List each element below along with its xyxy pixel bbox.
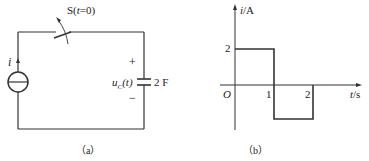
caption-a: （a） <box>76 146 100 156</box>
capacitor-value: 2 F <box>154 77 168 88</box>
switch-arrow-head <box>56 17 61 23</box>
y-axis-label: i/A <box>240 5 254 16</box>
x-tick-1: 1 <box>266 89 272 100</box>
y-axis-unit: /A <box>243 4 254 16</box>
switch-label-rest: =0) <box>80 4 95 16</box>
plus-sign: + <box>129 56 136 68</box>
y-tick-2: 2 <box>225 43 231 54</box>
x-axis-unit: /s <box>353 88 360 100</box>
source-current-label: i <box>8 56 11 68</box>
x-axis-arrow-icon <box>356 83 362 87</box>
diagram-canvas <box>0 0 369 161</box>
switch-arrow-icon <box>58 20 68 44</box>
graph-panel-b <box>220 4 362 130</box>
switch-label-s: S( <box>67 4 77 16</box>
current-arrow-icon <box>16 58 20 63</box>
switch-blade[interactable] <box>54 32 71 38</box>
uc-arg: (t) <box>122 76 132 88</box>
minus-sign: − <box>129 92 136 104</box>
origin-label: O <box>223 89 231 100</box>
x-axis-label: t/s <box>350 89 360 100</box>
current-waveform <box>235 49 313 119</box>
x-tick-2: 2 <box>305 89 311 100</box>
capacitor-voltage-label: uC(t) <box>112 77 133 91</box>
caption-b: （b） <box>243 146 268 156</box>
switch-label: S(t=0) <box>67 5 95 16</box>
y-axis-arrow-icon <box>233 4 237 10</box>
circuit-panel-a <box>8 17 151 129</box>
